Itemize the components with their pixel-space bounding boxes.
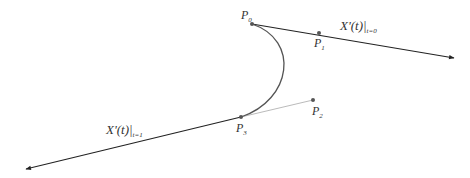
bezier-diagram: P0 P1 P2 P3 X'(t)|t=0 X'(t)|t=1 [0, 0, 470, 178]
label-p2: P2 [311, 104, 323, 120]
label-p0: P0 [240, 8, 252, 24]
label-tangent-t1: X'(t)|t=1 [105, 122, 143, 139]
point-p1 [317, 31, 321, 35]
point-p3 [239, 115, 243, 119]
tangent-line-t1 [26, 117, 241, 169]
label-tangent-t0: X'(t)|t=0 [339, 18, 377, 35]
control-line-p2-p3 [241, 100, 313, 117]
label-p3: P3 [235, 121, 247, 137]
point-p2 [311, 98, 315, 102]
bezier-curve [241, 24, 284, 117]
label-p1: P1 [313, 36, 325, 52]
